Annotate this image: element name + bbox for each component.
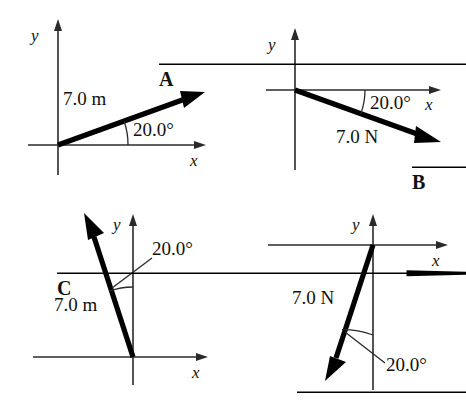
panel-c-vector-label: C (57, 278, 466, 298)
panel-a-angle-arc (124, 122, 128, 146)
panel-b-vector-label-text: B (412, 171, 425, 193)
panel-c-vector-label-text: C (57, 277, 71, 299)
panel-a-vector-label-text: A (159, 68, 173, 90)
panel-a-angle-label: 20.0° (133, 120, 174, 139)
panel-b-y-axis-arrowhead (291, 28, 299, 40)
panel-c-x-axis-label: x (192, 364, 200, 381)
panel-b-angle-label: 20.0° (370, 93, 411, 112)
panel-d-x-axis-arrowhead (436, 241, 448, 249)
panel-c-y-axis-arrowhead (129, 214, 137, 226)
panel-b-y-axis-label: y (268, 36, 276, 53)
panel-a-vector-label: A (159, 69, 466, 89)
panel-c-angle-label: 20.0° (152, 239, 193, 258)
panel-b-x-axis-label: x (425, 96, 433, 113)
panel-d-vector-label-text: D (297, 396, 311, 400)
panel-b-magnitude-label: 7.0 N (336, 127, 378, 146)
vector-figure: y x 7.0 m 20.0° A y x 7.0 N 20.0° B y x … (0, 0, 466, 400)
panel-d-vector-arrowhead (325, 356, 346, 381)
panel-d-y-axis-label: y (352, 216, 360, 233)
panel-b-vector-label: B (412, 172, 466, 192)
panel-d-y-axis-arrowhead (369, 214, 377, 226)
panel-a-x-axis-label: x (190, 152, 198, 169)
panel-c-y-axis-label: y (113, 216, 121, 233)
panel-c-vector-arrowhead (84, 213, 104, 240)
panel-a-vector-arrowhead (180, 91, 205, 108)
panel-b-vector-arrowhead (414, 126, 441, 143)
panel-a-graphic (28, 19, 206, 175)
panel-b-angle-arc (361, 90, 365, 114)
figure-canvas (0, 0, 466, 400)
panel-a-y-axis-arrowhead (54, 19, 62, 31)
panel-a-y-axis-label: y (31, 27, 39, 44)
panel-d-x-axis-label: x (432, 252, 440, 269)
panel-d-angle-label: 20.0° (386, 355, 427, 374)
panel-a-magnitude-label: 7.0 m (63, 89, 106, 108)
panel-c-x-axis-arrowhead (196, 353, 208, 361)
panel-d-vector-shaft (336, 245, 373, 358)
panel-d-magnitude-label: 7.0 N (292, 288, 334, 307)
panel-b-graphic (266, 28, 441, 170)
panel-d-angle-leader (345, 332, 385, 363)
panel-a-x-axis-arrowhead (194, 141, 206, 149)
